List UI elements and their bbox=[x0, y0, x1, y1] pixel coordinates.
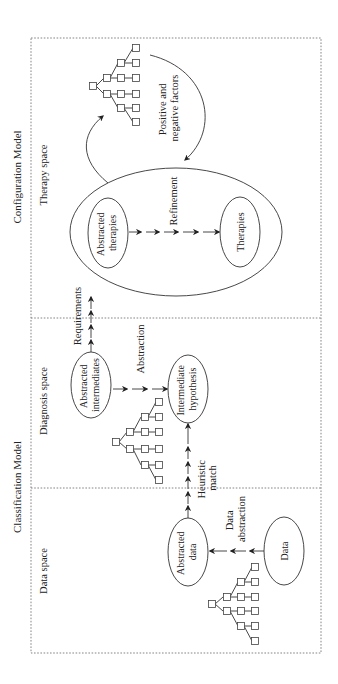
therapy-space-label: Therapy space bbox=[38, 144, 49, 205]
classification-model-label: Classification Model bbox=[11, 441, 23, 533]
node-abstracted-therapies-label: Abstracted therapies bbox=[95, 210, 118, 256]
diagnosis-tree bbox=[113, 399, 163, 484]
arc-to-tree bbox=[86, 116, 108, 183]
diagnosis-space-label: Diagnosis space bbox=[38, 367, 49, 435]
feedback-label: Positive and negative factors bbox=[157, 75, 180, 142]
diagram-canvas: Configuration Model Classification Model… bbox=[0, 0, 338, 684]
node-abstracted-data-label: Abstracted data bbox=[175, 529, 198, 575]
refinement-label: Refinement bbox=[168, 176, 179, 225]
configuration-model-label: Configuration Model bbox=[11, 130, 23, 223]
data-abstraction-label: Data abstraction bbox=[224, 495, 247, 542]
node-data-label: Data bbox=[279, 541, 290, 560]
node-therapies-label: Therapies bbox=[235, 212, 246, 252]
node-intermediate-hypothesis-label: Intermediate hypothesis bbox=[175, 362, 198, 415]
data-space-label: Data space bbox=[38, 548, 49, 594]
heuristic-match-label: Heuristic match bbox=[196, 457, 218, 498]
therapy-tree bbox=[90, 45, 140, 126]
abstraction-label: Abstraction bbox=[135, 324, 146, 374]
data-tree bbox=[209, 564, 259, 645]
node-abstracted-intermediates-label: Abstracted intermediates bbox=[78, 358, 101, 412]
requirements-label: Requirements bbox=[72, 287, 83, 345]
